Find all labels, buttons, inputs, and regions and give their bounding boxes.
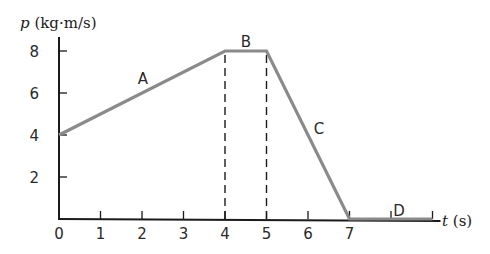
x-tick-label: 5 [262,225,272,243]
dashed-guides [225,53,267,219]
x-tick-label: 0 [54,225,64,243]
y-tick-label: 8 [29,43,39,61]
momentum-line [59,51,433,219]
y-tick-label: 6 [29,85,39,103]
segment-label-a: A [138,70,149,88]
momentum-polyline [59,51,433,219]
y-tick-label: 4 [29,127,39,145]
labels: 012345672468ABCDp (kg·m/s)t (s) [20,14,472,243]
segment-label-c: C [314,120,324,138]
x-tick-label: 2 [137,225,147,243]
x-tick-label: 4 [220,225,230,243]
axes [58,37,441,221]
segment-label-b: B [241,33,251,51]
x-tick-label: 3 [179,225,189,243]
x-tick-label: 7 [345,225,355,243]
y-tick-label: 2 [29,169,39,187]
x-axis-title: t (s) [442,212,472,230]
y-axis-title: p (kg·m/s) [20,14,97,32]
momentum-time-chart: 012345672468ABCDp (kg·m/s)t (s) [0,0,490,254]
segment-label-d: D [393,202,405,220]
x-tick-label: 6 [303,225,313,243]
x-tick-label: 1 [96,225,106,243]
